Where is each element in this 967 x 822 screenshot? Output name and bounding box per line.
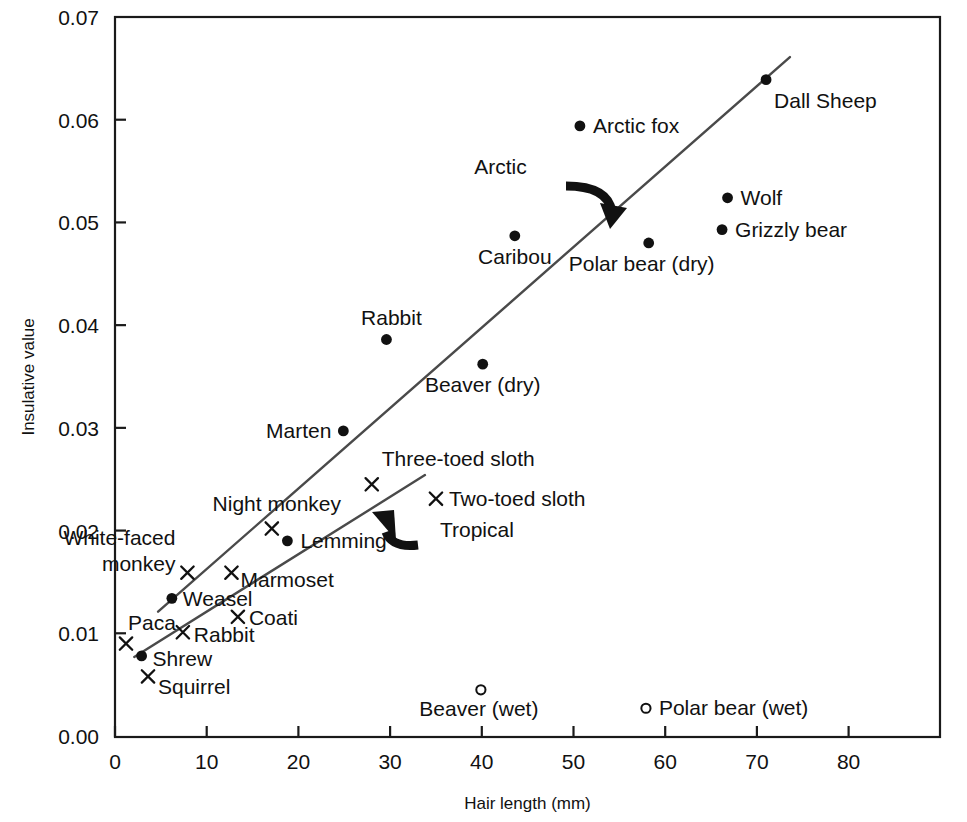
point-label: Marmoset (240, 568, 334, 591)
tropical-arrow-shaft (386, 532, 418, 545)
point-label: Two-toed sloth (449, 487, 586, 510)
x-tick-label: 10 (195, 750, 218, 773)
data-point[interactable]: Lemming (282, 529, 387, 552)
cross-marker (225, 566, 237, 578)
cross-marker (430, 493, 442, 505)
data-point[interactable]: Polar bear (dry) (569, 238, 715, 275)
arctic-arrow-head (600, 203, 627, 229)
point-label: Rabbit (194, 623, 255, 646)
data-point[interactable]: Shrew (136, 647, 213, 670)
filled-circle-marker (509, 230, 520, 241)
x-tick-label: 20 (287, 750, 310, 773)
y-axis-title: Insulative value (19, 318, 38, 435)
filled-circle-marker (643, 238, 654, 249)
point-label: Beaver (wet) (419, 697, 538, 720)
point-label: Caribou (478, 245, 552, 268)
point-label: White-faced (63, 526, 175, 549)
x-tick-label: 60 (654, 750, 677, 773)
point-label: Weasel (183, 587, 253, 610)
annotation-label-arctic: Arctic (474, 155, 527, 178)
y-tick-label: 0.05 (58, 211, 99, 234)
x-axis-ticks: 01020304050607080 (109, 726, 860, 773)
cross-marker (266, 522, 278, 534)
filled-circle-marker (575, 120, 586, 131)
data-point[interactable]: Marten (266, 419, 349, 442)
data-point[interactable]: Polar bear (wet) (641, 696, 808, 719)
filled-circle-marker (717, 224, 728, 235)
filled-circle-marker (722, 192, 733, 203)
x-tick-label: 80 (837, 750, 860, 773)
point-label: Wolf (741, 186, 783, 209)
data-point[interactable]: Three-toed sloth (366, 447, 535, 490)
point-label: Shrew (153, 647, 213, 670)
filled-circle-marker (136, 650, 147, 661)
point-label: monkey (102, 552, 176, 575)
filled-circle-marker (282, 535, 293, 546)
point-label: Dall Sheep (774, 89, 877, 112)
point-label: Three-toed sloth (382, 447, 535, 470)
y-tick-label: 0.00 (58, 725, 99, 748)
point-label: Arctic fox (593, 114, 680, 137)
y-tick-label: 0.06 (58, 109, 99, 132)
cross-marker (366, 478, 378, 490)
filled-circle-marker (166, 593, 177, 604)
data-point[interactable]: Weasel (166, 587, 252, 610)
data-point[interactable]: Beaver (wet) (419, 685, 538, 720)
filled-circle-marker (381, 334, 392, 345)
point-label: Paca (128, 611, 176, 634)
y-tick-label: 0.03 (58, 417, 99, 440)
trend-lines (134, 57, 790, 657)
data-point[interactable]: White-facedmonkey (63, 526, 193, 579)
point-label: Night monkey (213, 492, 342, 515)
plot-svg: 01020304050607080 0.000.010.020.030.040.… (0, 0, 967, 822)
cross-marker (181, 566, 193, 578)
data-point[interactable]: Squirrel (142, 670, 231, 698)
point-label: Polar bear (wet) (659, 696, 808, 719)
y-tick-label: 0.04 (58, 314, 99, 337)
filled-circle-marker (477, 359, 488, 370)
y-tick-label: 0.01 (58, 622, 99, 645)
data-point[interactable]: Grizzly bear (717, 218, 847, 241)
x-tick-label: 40 (470, 750, 493, 773)
x-tick-label: 30 (378, 750, 401, 773)
point-label: Marten (266, 419, 331, 442)
cross-marker (120, 637, 132, 649)
x-tick-label: 50 (562, 750, 585, 773)
point-label: Rabbit (361, 306, 422, 329)
x-tick-label: 70 (745, 750, 768, 773)
data-point[interactable]: Paca (120, 611, 176, 650)
point-label: Coati (249, 606, 298, 629)
point-label: Polar bear (dry) (569, 252, 715, 275)
point-label: Grizzly bear (735, 218, 847, 241)
data-point[interactable]: Caribou (478, 230, 552, 267)
open-circle-marker (641, 704, 650, 713)
point-label: Lemming (300, 529, 386, 552)
filled-circle-marker (761, 74, 772, 85)
point-label: Squirrel (158, 675, 230, 698)
x-tick-label: 0 (109, 750, 121, 773)
scatter-chart-figure: 01020304050607080 0.000.010.020.030.040.… (0, 0, 967, 822)
y-tick-label: 0.07 (58, 6, 99, 29)
filled-circle-marker (338, 426, 349, 437)
data-point[interactable]: Wolf (722, 186, 782, 209)
data-points: Dall SheepArctic foxWolfGrizzly bearPola… (63, 74, 876, 720)
open-circle-marker (476, 685, 485, 694)
data-point[interactable]: Two-toed sloth (430, 487, 586, 510)
cross-marker (232, 611, 244, 623)
data-point[interactable]: Beaver (dry) (425, 359, 541, 396)
point-label: Beaver (dry) (425, 373, 541, 396)
data-point[interactable]: Rabbit (361, 306, 422, 345)
annotation-label-tropical: Tropical (440, 518, 514, 541)
x-axis-title: Hair length (mm) (464, 794, 591, 813)
data-point[interactable]: Rabbit (177, 623, 255, 646)
data-point[interactable]: Dall Sheep (761, 74, 877, 111)
data-point[interactable]: Arctic fox (575, 114, 680, 137)
cross-marker (142, 670, 154, 682)
